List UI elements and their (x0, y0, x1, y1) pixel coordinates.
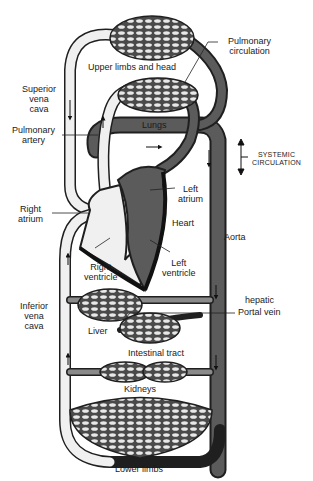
systemic-double-arrow-icon (238, 139, 248, 175)
label-superior-vena-cava: Superior vena cava (22, 84, 56, 114)
label-pulmonary-circulation: Pulmonary circulation (228, 36, 271, 56)
label-right-ventricle: Right ventricle (84, 262, 118, 282)
label-portal-vein: Portal vein (238, 307, 281, 317)
label-inferior-vena-cava: Inferior vena cava (20, 301, 48, 331)
label-kidneys: Kidneys (124, 384, 156, 394)
intestinal-capillaries (120, 313, 180, 343)
upper-limbs-capillaries (110, 16, 194, 60)
label-heart: Heart (172, 218, 194, 228)
circulation-diagram (0, 0, 313, 481)
label-right-atrium: Right atrium (18, 204, 43, 224)
label-left-atrium: Left atrium (178, 184, 203, 204)
label-intestinal-tract: Intestinal tract (128, 348, 184, 358)
lung-capillaries (118, 78, 198, 112)
label-aorta: Aorta (224, 232, 246, 242)
label-upper-limbs: Upper limbs and head (88, 62, 176, 72)
lower-limbs-capillaries (70, 398, 212, 459)
label-pulmonary-artery: Pulmonary artery (12, 125, 55, 145)
label-left-ventricle: Left ventricle (162, 258, 196, 278)
label-lower-limbs: Lower limbs (115, 464, 163, 474)
kidney-capillaries-right (143, 362, 187, 382)
label-systemic-circulation: SYSTEMIC CIRCULATION (252, 151, 301, 167)
label-lungs: Lungs (142, 120, 167, 130)
label-liver: Liver (88, 326, 108, 336)
label-hepatic: hepatic (245, 295, 274, 305)
